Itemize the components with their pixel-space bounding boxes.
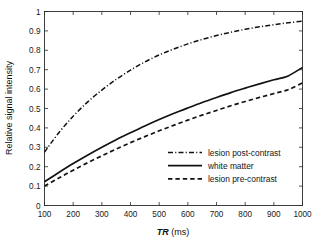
y-tick-label: 0.3 <box>29 143 41 152</box>
y-tick-label: 0.8 <box>29 46 41 55</box>
x-tick-label: 900 <box>267 210 281 219</box>
x-tick-label: 1000 <box>293 210 312 219</box>
x-tick-label: 300 <box>95 210 109 219</box>
y-tick-label: 0.2 <box>29 163 41 172</box>
y-tick-label: 0.6 <box>29 85 41 94</box>
x-tick-label: 200 <box>66 210 80 219</box>
y-tick-label: 0 <box>36 202 41 211</box>
y-tick-label: 0.7 <box>29 66 41 75</box>
x-tick-label: 700 <box>210 210 224 219</box>
x-tick-label: 100 <box>38 210 52 219</box>
y-tick-label: 0.9 <box>29 27 41 36</box>
x-tick-label: 400 <box>124 210 138 219</box>
chart-background <box>0 0 318 244</box>
y-tick-label: 0.1 <box>29 182 41 191</box>
legend-label: lesion post-contrast <box>208 148 281 158</box>
figure-container: 1002003004005006007008009001000 00.10.20… <box>0 0 318 244</box>
legend-label: lesion pre-contrast <box>208 174 278 184</box>
x-axis-title: TR (ms) <box>157 227 190 237</box>
x-tick-label: 600 <box>181 210 195 219</box>
relative-signal-intensity-chart: 1002003004005006007008009001000 00.10.20… <box>0 0 318 244</box>
y-axis-title: Relative signal intensity <box>4 60 14 155</box>
y-tick-label: 0.5 <box>29 105 41 114</box>
legend-label: white matter <box>207 161 254 171</box>
x-tick-label: 500 <box>152 210 166 219</box>
x-tick-label: 800 <box>238 210 252 219</box>
y-tick-label: 1 <box>36 8 41 17</box>
y-tick-label: 0.4 <box>29 124 41 133</box>
